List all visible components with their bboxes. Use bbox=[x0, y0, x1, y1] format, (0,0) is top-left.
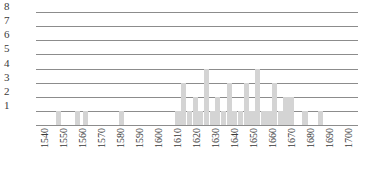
y-tick-label-7: 7 bbox=[4, 15, 34, 26]
y-axis: 87654321 bbox=[0, 12, 34, 125]
bar bbox=[261, 111, 266, 125]
x-tick-label-1660: 1660 bbox=[268, 128, 278, 148]
bar bbox=[283, 97, 288, 125]
bar bbox=[187, 111, 192, 125]
bar bbox=[318, 111, 323, 125]
x-tick-label-1600: 1600 bbox=[154, 128, 164, 148]
bar bbox=[198, 111, 203, 125]
bar bbox=[181, 83, 186, 125]
x-tick-label-1630: 1630 bbox=[211, 128, 221, 148]
bar bbox=[56, 111, 61, 125]
bar bbox=[278, 111, 283, 125]
x-tick-label-1570: 1570 bbox=[97, 128, 107, 148]
bar bbox=[238, 111, 243, 125]
bar bbox=[255, 69, 260, 126]
bar bbox=[221, 111, 226, 125]
bar bbox=[119, 111, 124, 125]
y-tick-label-5: 5 bbox=[4, 43, 34, 54]
x-tick-label-1560: 1560 bbox=[78, 128, 88, 148]
y-tick-label-6: 6 bbox=[4, 29, 34, 40]
bar bbox=[289, 97, 294, 125]
plot-area bbox=[36, 12, 358, 125]
histogram-chart: 87654321 1540155015601570158015901600161… bbox=[0, 0, 370, 171]
bar bbox=[272, 83, 277, 125]
bar bbox=[204, 69, 209, 126]
x-tick-label-1590: 1590 bbox=[135, 128, 145, 148]
bar bbox=[175, 111, 180, 125]
bar bbox=[75, 111, 80, 125]
x-tick-label-1650: 1650 bbox=[249, 128, 259, 148]
bar bbox=[232, 111, 237, 125]
y-tick-label-8: 8 bbox=[4, 1, 34, 12]
bar bbox=[193, 97, 198, 125]
x-tick-label-1580: 1580 bbox=[116, 128, 126, 148]
bar bbox=[244, 83, 249, 125]
bar bbox=[83, 111, 88, 125]
bar bbox=[266, 111, 271, 125]
x-tick-label-1640: 1640 bbox=[230, 128, 240, 148]
x-tick-label-1680: 1680 bbox=[306, 128, 316, 148]
x-tick-label-1550: 1550 bbox=[59, 128, 69, 148]
x-tick-label-1700: 1700 bbox=[344, 128, 354, 148]
y-tick-label-4: 4 bbox=[4, 58, 34, 69]
x-tick-label-1690: 1690 bbox=[325, 128, 335, 148]
x-tick-label-1610: 1610 bbox=[173, 128, 183, 148]
bar bbox=[227, 83, 232, 125]
y-tick-label-1: 1 bbox=[4, 100, 34, 111]
x-tick-label-1670: 1670 bbox=[287, 128, 297, 148]
x-axis: 1540155015601570158015901600161016201630… bbox=[36, 126, 358, 171]
bar bbox=[215, 97, 220, 125]
bar bbox=[210, 111, 215, 125]
x-tick-label-1540: 1540 bbox=[40, 128, 50, 148]
bar bbox=[249, 111, 254, 125]
y-tick-label-3: 3 bbox=[4, 72, 34, 83]
x-tick-label-1620: 1620 bbox=[192, 128, 202, 148]
bar-series bbox=[36, 12, 358, 125]
bar bbox=[302, 111, 307, 125]
y-tick-label-2: 2 bbox=[4, 86, 34, 97]
